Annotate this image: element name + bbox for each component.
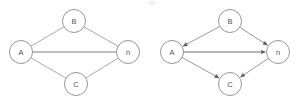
node-undirected-graph-n[interactable]: n (117, 41, 140, 64)
node-undirected-graph-C[interactable]: C (65, 73, 88, 96)
arrowhead-A-n (261, 50, 266, 54)
node-undirected-graph-A[interactable]: A (10, 41, 33, 64)
right-directed-graph: ABnC (161, 10, 290, 96)
node-label-B: B (71, 17, 76, 26)
arrowhead-n-C (240, 73, 245, 78)
node-label-C: C (227, 80, 233, 89)
left-undirected-graph-edges (31, 27, 118, 78)
edge-B-n (240, 27, 265, 43)
arrowhead-B-n (263, 41, 268, 45)
edge-C-n (86, 58, 118, 78)
edge-A-C (182, 58, 216, 77)
node-undirected-graph-B[interactable]: B (63, 10, 86, 33)
edge-B-A (186, 26, 220, 44)
node-label-A: A (18, 48, 23, 57)
edge-n-C (243, 58, 268, 75)
edge-B-n (84, 27, 118, 47)
edge-A-C (31, 58, 66, 78)
left-undirected-graph: ABnC (10, 10, 140, 96)
node-directed-graph-B[interactable]: B (219, 10, 242, 33)
right-directed-graph-edges (182, 26, 268, 78)
graph-canvas: ABnCABnC (0, 0, 298, 105)
node-label-B: B (227, 17, 232, 26)
edge-A-B (31, 27, 64, 46)
node-directed-graph-n[interactable]: n (267, 41, 290, 64)
graph-figure: ABnCABnC (0, 0, 298, 105)
scan-smudge-mark (149, 1, 156, 5)
node-directed-graph-C[interactable]: C (219, 73, 242, 96)
node-label-n: n (276, 48, 280, 57)
node-directed-graph-A[interactable]: A (161, 41, 184, 64)
node-label-C: C (73, 80, 79, 89)
node-label-n: n (126, 48, 130, 57)
node-label-A: A (169, 48, 174, 57)
